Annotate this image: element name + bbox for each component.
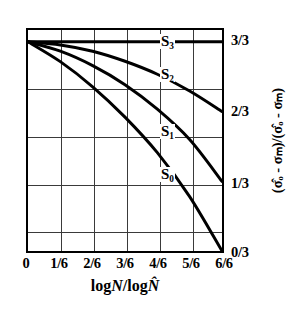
curve-label-s0: S0: [160, 167, 175, 182]
xtick-label: 4/6: [149, 255, 167, 272]
curve-label-s3: S3: [160, 34, 175, 49]
xtick-label: 1/6: [50, 255, 68, 272]
chart-figure: S3 S2 S1 S0 0 1/6 2/6 3/6 4/6 5/6 6/6 3/…: [0, 0, 305, 315]
y-axis-label-text: (σ̂ₒ - σₘ)/(σ̂ₒ - σₘ): [270, 87, 287, 192]
plot-area: S3 S2 S1 S0: [26, 28, 224, 253]
x-axis-label-log2: log: [127, 277, 147, 294]
xtick-label: 0: [23, 255, 30, 272]
x-axis-label: logN/logN̂: [0, 277, 250, 295]
curve-s2: [28, 42, 222, 112]
curves-layer: [28, 30, 222, 251]
xtick-label: 5/6: [182, 255, 200, 272]
ytick-label: 0/3: [231, 244, 249, 261]
xtick-label: 2/6: [83, 255, 101, 272]
y-axis-label: (σ̂ₒ - σₘ)/(σ̂ₒ - σₘ): [256, 40, 300, 240]
x-axis-label-n2-hat: N̂: [148, 277, 160, 294]
curve-label-s1: S1: [160, 124, 175, 139]
ytick-label: 1/3: [231, 175, 249, 192]
x-axis-label-n1: N: [111, 277, 123, 294]
ytick-label: 3/3: [231, 32, 249, 49]
ytick-label: 2/3: [231, 103, 249, 120]
curve-s0: [28, 42, 222, 251]
x-axis-label-log1: log: [91, 277, 111, 294]
xtick-label: 3/6: [116, 255, 134, 272]
curve-label-s2: S2: [160, 67, 175, 82]
